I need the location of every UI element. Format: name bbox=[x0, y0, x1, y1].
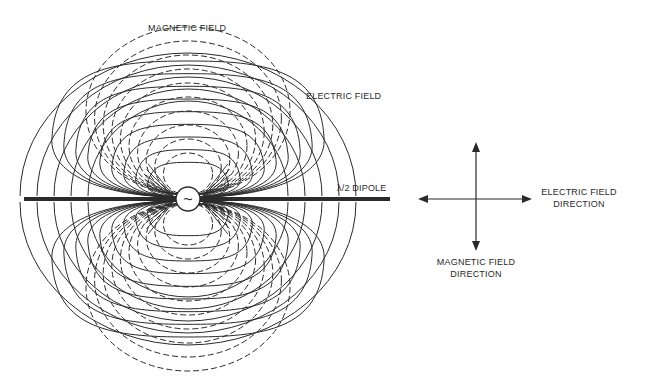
magnetic-direction-label: MAGNETIC FIELD DIRECTION bbox=[430, 256, 522, 280]
arrow-left-icon bbox=[418, 195, 428, 203]
source-symbol: ~ bbox=[183, 191, 192, 208]
magnetic-field-line bbox=[146, 125, 230, 195]
electric-field-line bbox=[112, 201, 265, 274]
electric-direction-label: ELECTRIC FIELD DIRECTION bbox=[536, 186, 622, 210]
magnetic-field-line bbox=[112, 69, 264, 195]
dipole-label: λ/2 DIPOLE bbox=[337, 182, 387, 194]
field-direction-cross bbox=[418, 142, 532, 251]
magnetic-field-line bbox=[138, 111, 239, 195]
arrow-down-icon bbox=[472, 241, 480, 251]
magnetic-field-line bbox=[146, 203, 230, 273]
arrow-right-icon bbox=[522, 195, 532, 203]
electric-field-line bbox=[64, 74, 312, 197]
arrow-up-icon bbox=[472, 142, 480, 152]
magnetic-field-line bbox=[138, 203, 239, 287]
electric-field-line bbox=[88, 99, 288, 197]
electric-field-line bbox=[64, 201, 312, 324]
dipole-antenna: ~ bbox=[24, 164, 390, 234]
magnetic-direction-label-line1: MAGNETIC FIELD bbox=[430, 256, 522, 268]
electric-direction-label-line1: ELECTRIC FIELD bbox=[536, 186, 622, 198]
electric-direction-label-line2: DIRECTION bbox=[536, 198, 622, 210]
electric-field-line bbox=[88, 201, 288, 299]
magnetic-direction-label-line2: DIRECTION bbox=[430, 268, 522, 280]
magnetic-field-line bbox=[112, 203, 264, 329]
electric-field-label: ELECTRIC FIELD bbox=[306, 90, 381, 102]
electric-field-line bbox=[112, 124, 265, 197]
magnetic-field-label: MAGNETIC FIELD bbox=[148, 22, 226, 34]
